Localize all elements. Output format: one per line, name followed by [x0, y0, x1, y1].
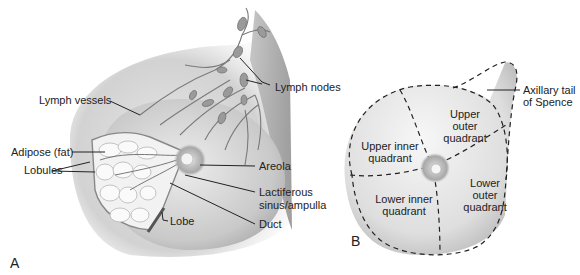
label-uoq-1: Upper	[435, 108, 495, 120]
label-duct: Duct	[259, 218, 282, 230]
label-lobe: Lobe	[170, 215, 194, 227]
label-axillary-1: Axillary tail	[523, 84, 576, 96]
label-lactiferous-2: sinus/ampulla	[259, 199, 326, 211]
label-loq-3: quadrant	[455, 201, 515, 213]
label-lactiferous-1: Lactiferous	[259, 186, 313, 198]
label-lymph-nodes: Lymph nodes	[275, 81, 341, 93]
label-areola: Areola	[259, 160, 291, 172]
label-liq-2: quadrant	[369, 205, 439, 217]
label-uiq-2: quadrant	[355, 152, 425, 164]
label-lobules: Lobules	[24, 164, 63, 176]
label-loq-1: Lower	[455, 177, 515, 189]
label-uoq-3: quadrant	[435, 132, 495, 144]
label-uiq-1: Upper inner	[355, 140, 425, 152]
breast-anatomy-figure: Lymph vessels Lymph nodes Adipose (fat) …	[0, 0, 580, 275]
label-uoq-2: outer	[435, 120, 495, 132]
label-axillary-2: of Spence	[523, 96, 573, 108]
label-liq-1: Lower inner	[369, 193, 439, 205]
panel-letter-a: A	[10, 255, 19, 271]
label-loq-2: outer	[455, 189, 515, 201]
label-lymph-vessels: Lymph vessels	[39, 94, 111, 106]
label-adipose: Adipose (fat)	[11, 146, 73, 158]
panel-letter-b: B	[351, 233, 360, 249]
